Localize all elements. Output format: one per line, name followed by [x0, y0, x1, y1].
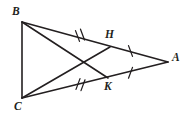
vertex-label-a: A [172, 52, 180, 64]
vertex-label-h: H [105, 29, 114, 41]
tick-mark-ka-single [129, 67, 133, 78]
segment-ch [22, 47, 110, 98]
vertex-label-k: K [104, 81, 112, 93]
vertex-label-b: B [12, 6, 20, 18]
segment-ca [22, 62, 168, 98]
geometry-figure: B C A H K [0, 0, 185, 120]
geometry-diagram-canvas [0, 0, 185, 120]
segment-bk [22, 22, 108, 78]
tick-mark-ck-double [76, 79, 85, 91]
vertex-label-c: C [14, 101, 22, 113]
